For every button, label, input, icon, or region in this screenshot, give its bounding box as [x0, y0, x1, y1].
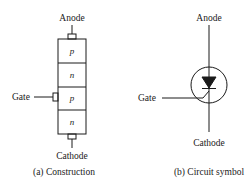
layer-label-4: n	[70, 117, 75, 127]
thyristor-diagram: Anode p n p n Gate Cathode (a) Construct…	[0, 0, 251, 186]
layer-label-1: p	[69, 46, 75, 56]
symbol-gate-lead	[162, 91, 209, 98]
symbol-caption: (b) Circuit symbol	[174, 167, 245, 178]
symbol-cathode-label: Cathode	[193, 138, 225, 148]
diode-triangle-icon	[202, 77, 216, 88]
layer-label-2: n	[70, 70, 75, 80]
symbol-gate-label: Gate	[138, 93, 156, 103]
layer-label-3: p	[69, 93, 75, 103]
symbol-anode-label: Anode	[196, 13, 221, 23]
construction-anode-label: Anode	[59, 13, 84, 23]
construction-caption: (a) Construction	[33, 167, 95, 178]
construction-gate-label: Gate	[12, 92, 30, 102]
circuit-symbol	[162, 25, 227, 132]
construction-cathode-label: Cathode	[56, 151, 88, 161]
gate-terminal	[53, 93, 58, 101]
cathode-terminal	[68, 134, 76, 139]
construction-diagram	[34, 25, 86, 148]
anode-terminal	[68, 34, 76, 39]
